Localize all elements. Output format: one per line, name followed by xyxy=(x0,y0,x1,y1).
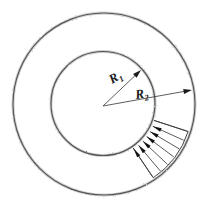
inner-circle xyxy=(51,52,155,156)
inner-circle-group xyxy=(51,52,155,156)
load-arrow-head xyxy=(134,149,141,158)
outer-circle-group xyxy=(13,13,195,195)
r2-label: R2 xyxy=(133,85,150,104)
annulus-diagram: Annulus cross-section with inner radius … xyxy=(0,0,211,211)
r1-label: R1 xyxy=(105,67,126,89)
load-arrow-head xyxy=(150,132,159,138)
load-arrow-head xyxy=(153,126,162,131)
r2-arrow-head xyxy=(183,89,192,94)
outer-circle-texture xyxy=(13,13,195,195)
distributed-load xyxy=(133,120,188,177)
load-arrow-head xyxy=(147,137,155,144)
figure-canvas: Annulus cross-section with inner radius … xyxy=(0,0,211,211)
